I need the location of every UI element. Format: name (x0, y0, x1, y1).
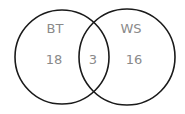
count-ws-only: 16 (126, 52, 143, 67)
set-label-bt: BT (47, 21, 64, 36)
count-bt-only: 18 (46, 52, 63, 67)
count-intersection: 3 (89, 52, 97, 67)
venn-diagram: BT WS 18 3 16 (0, 0, 185, 114)
set-label-ws: WS (120, 21, 141, 36)
